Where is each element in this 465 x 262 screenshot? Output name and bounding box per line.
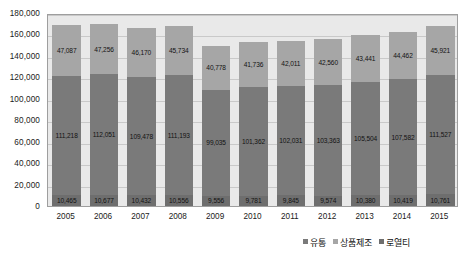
bar-value-label: 40,778 xyxy=(202,64,231,71)
bar-segment-manufacturing: 46,170 xyxy=(127,28,156,78)
bar-value-label: 103,363 xyxy=(314,137,343,144)
bar-value-label: 9,574 xyxy=(308,197,349,204)
bar-segment-manufacturing: 42,011 xyxy=(277,41,306,86)
bar-segment-distribution: 102,031 xyxy=(277,86,306,195)
bar-segment-royalty: 10,465 xyxy=(52,195,81,206)
bar-group: 10,677112,05147,256 xyxy=(90,13,119,206)
bar-segment-royalty: 10,677 xyxy=(90,195,119,206)
legend-item[interactable]: 유통 xyxy=(303,238,326,248)
bar-value-label: 45,734 xyxy=(165,47,194,54)
bar-segment-distribution: 103,363 xyxy=(314,85,343,196)
bar-value-label: 41,736 xyxy=(239,61,268,68)
bar-segment-distribution: 99,035 xyxy=(202,90,231,196)
bar-value-label: 101,362 xyxy=(239,138,268,145)
x-axis-tick-label: 2012 xyxy=(309,212,346,221)
x-axis-tick-label: 2008 xyxy=(159,212,196,221)
legend-swatch-icon xyxy=(333,239,338,244)
y-axis-tick-label: 100,000 xyxy=(0,96,40,104)
bar-segment-manufacturing: 40,778 xyxy=(202,46,231,90)
bar-segment-manufacturing: 45,921 xyxy=(426,26,455,75)
y-axis: 020,00040,00060,00080,000100,000120,0001… xyxy=(0,14,44,207)
legend-label: 로열티 xyxy=(386,238,410,248)
bar-value-label: 102,031 xyxy=(277,137,306,144)
legend-label: 유통 xyxy=(310,238,326,248)
x-axis-tick-label: 2010 xyxy=(234,212,271,221)
x-axis-tick-label: 2013 xyxy=(346,212,383,221)
bar-group: 10,419107,58244,462 xyxy=(389,13,418,206)
bar-segment-distribution: 111,218 xyxy=(52,76,81,195)
bar-segment-distribution: 111,527 xyxy=(426,75,455,195)
bar-value-label: 47,087 xyxy=(52,47,81,54)
bar-segment-royalty: 10,556 xyxy=(165,195,194,206)
bar-group: 10,380105,50443,441 xyxy=(351,13,380,206)
bar-segment-manufacturing: 44,462 xyxy=(389,32,418,80)
legend-label: 상품제조 xyxy=(340,238,372,248)
bar-value-label: 10,677 xyxy=(84,197,125,204)
bar-value-label: 10,432 xyxy=(121,197,162,204)
bar-segment-distribution: 105,504 xyxy=(351,82,380,195)
y-axis-tick-label: 60,000 xyxy=(0,139,40,147)
bar-segment-distribution: 112,051 xyxy=(90,74,119,194)
bar-value-label: 42,011 xyxy=(277,60,306,67)
y-axis-tick-label: 140,000 xyxy=(0,53,40,61)
bar-segment-manufacturing: 47,256 xyxy=(90,24,119,75)
y-axis-tick-label: 160,000 xyxy=(0,31,40,39)
bar-value-label: 10,380 xyxy=(345,197,386,204)
bar-value-label: 42,560 xyxy=(314,59,343,66)
bar-segment-royalty: 9,574 xyxy=(314,196,343,206)
legend-item[interactable]: 로열티 xyxy=(379,238,410,248)
bar-segment-manufacturing: 42,560 xyxy=(314,39,343,85)
bar-segment-manufacturing: 43,441 xyxy=(351,35,380,82)
y-axis-tick-label: 20,000 xyxy=(0,182,40,190)
bar-value-label: 111,193 xyxy=(165,132,194,139)
bar-segment-royalty: 10,432 xyxy=(127,195,156,206)
bar-segment-manufacturing: 47,087 xyxy=(52,25,81,75)
bar-value-label: 9,845 xyxy=(271,197,312,204)
x-axis-tick-label: 2005 xyxy=(47,212,84,221)
bar-segment-distribution: 111,193 xyxy=(165,75,194,194)
bar-segment-royalty: 9,556 xyxy=(202,196,231,206)
bar-value-label: 109,478 xyxy=(127,133,156,140)
bar-value-label: 10,761 xyxy=(420,197,461,204)
bar-value-label: 107,582 xyxy=(389,134,418,141)
bar-segment-distribution: 101,362 xyxy=(239,87,268,196)
bar-segment-manufacturing: 41,736 xyxy=(239,42,268,87)
legend-swatch-icon xyxy=(303,239,308,244)
bar-value-label: 10,465 xyxy=(46,197,87,204)
y-axis-tick-label: 0 xyxy=(0,203,40,211)
y-axis-tick-label: 180,000 xyxy=(0,10,40,18)
x-axis-tick-label: 2011 xyxy=(271,212,308,221)
bar-value-label: 99,035 xyxy=(202,139,231,146)
bar-group: 10,556111,19345,734 xyxy=(165,13,194,206)
bar-segment-royalty: 10,380 xyxy=(351,195,380,206)
bar-segment-distribution: 109,478 xyxy=(127,77,156,194)
x-axis: 2005200620072008200920102011201220132014… xyxy=(47,210,458,224)
x-axis-tick-label: 2009 xyxy=(196,212,233,221)
y-axis-tick-label: 40,000 xyxy=(0,160,40,168)
bar-segment-royalty: 10,761 xyxy=(426,194,455,206)
bar-value-label: 43,441 xyxy=(351,55,380,62)
legend-swatch-icon xyxy=(379,239,384,244)
bar-segment-royalty: 9,781 xyxy=(239,196,268,206)
x-axis-tick-label: 2014 xyxy=(383,212,420,221)
legend-item[interactable]: 상품제조 xyxy=(333,238,372,248)
bar-value-label: 9,781 xyxy=(233,197,274,204)
bar-group: 10,465111,21847,087 xyxy=(52,13,81,206)
bar-value-label: 10,556 xyxy=(159,197,200,204)
y-axis-tick-label: 120,000 xyxy=(0,74,40,82)
x-axis-tick-label: 2015 xyxy=(421,212,458,221)
bar-segment-royalty: 10,419 xyxy=(389,195,418,206)
chart-legend: 유통상품제조로열티 xyxy=(303,236,410,250)
bar-value-label: 44,462 xyxy=(389,52,418,59)
bar-value-label: 45,921 xyxy=(426,47,455,54)
bar-value-label: 111,527 xyxy=(426,131,455,138)
bars-layer: 10,465111,21847,08710,677112,05147,25610… xyxy=(48,15,457,206)
bar-group: 10,761111,52745,921 xyxy=(426,13,455,206)
x-axis-tick-label: 2007 xyxy=(122,212,159,221)
bar-segment-manufacturing: 45,734 xyxy=(165,26,194,75)
bar-value-label: 10,419 xyxy=(383,197,424,204)
bar-segment-distribution: 107,582 xyxy=(389,79,418,194)
bar-value-label: 105,504 xyxy=(351,135,380,142)
bar-value-label: 112,051 xyxy=(90,131,119,138)
bar-group: 10,432109,47846,170 xyxy=(127,13,156,206)
